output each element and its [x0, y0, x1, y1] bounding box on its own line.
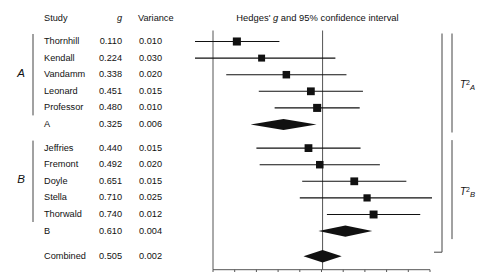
column-header-variance: Variance [138, 14, 174, 23]
row-variance-value-1: 0.030 [139, 54, 162, 63]
effect-marker-professor [313, 104, 321, 112]
effect-marker-thorwald [370, 211, 378, 219]
variance-label-b: T2B [460, 185, 475, 199]
row-variance-value-8: 0.015 [139, 177, 162, 186]
row-study-name-8: Doyle [44, 177, 68, 186]
plot-title: Hedges' g and 95% confidence interval [236, 13, 398, 22]
row-variance-value-2: 0.020 [139, 70, 162, 79]
effect-marker-fremont [316, 161, 324, 169]
row-g-value-0: 0.110 [100, 37, 122, 46]
summary-diamond-a [251, 119, 317, 130]
row-study-name-1: Kendall [44, 54, 75, 63]
row-study-name-10: Thorwald [44, 210, 82, 219]
row-study-name-11: B [44, 227, 50, 236]
row-study-name-7: Fremont [44, 160, 78, 169]
row-variance-value-7: 0.020 [139, 160, 162, 169]
row-study-name-4: Professor [44, 103, 83, 112]
row-variance-value-12: 0.002 [139, 252, 162, 261]
row-study-name-9: Stella [44, 193, 67, 202]
row-g-value-9: 0.710 [99, 193, 122, 202]
row-study-name-5: A [44, 120, 50, 129]
row-study-name-2: Vandamm [44, 70, 85, 79]
row-g-value-5: 0.325 [99, 120, 122, 129]
row-study-name-12: Combined [44, 252, 86, 261]
summary-diamond-combined [303, 250, 341, 262]
effect-marker-doyle [350, 177, 358, 185]
effect-marker-vandamm [283, 71, 291, 79]
row-g-value-3: 0.451 [99, 87, 122, 96]
row-g-value-1: 0.224 [99, 54, 122, 63]
row-g-value-10: 0.740 [99, 210, 122, 219]
row-variance-value-4: 0.010 [139, 103, 162, 112]
row-variance-value-11: 0.004 [139, 227, 162, 236]
column-header-g: g [117, 14, 122, 23]
column-header-study: Study [44, 14, 68, 23]
row-variance-value-3: 0.015 [139, 87, 162, 96]
row-study-name-3: Leonard [44, 87, 78, 96]
row-variance-value-6: 0.015 [139, 144, 162, 153]
row-g-value-7: 0.492 [99, 160, 122, 169]
variance-label-a: T2A [460, 78, 475, 92]
row-variance-value-0: 0.010 [139, 37, 162, 46]
group-label-a: A [17, 69, 25, 78]
effect-marker-kendall [258, 55, 265, 62]
row-g-value-2: 0.338 [99, 70, 122, 79]
effect-marker-leonard [307, 87, 315, 95]
row-g-value-4: 0.480 [99, 103, 122, 112]
row-variance-value-9: 0.025 [139, 193, 162, 202]
row-g-value-12: 0.505 [99, 252, 122, 261]
effect-marker-stella [363, 194, 370, 201]
row-g-value-11: 0.610 [99, 227, 122, 236]
row-study-name-0: Thornhill [44, 37, 79, 46]
effect-marker-thornhill [233, 37, 241, 45]
summary-diamond-b [318, 226, 372, 237]
row-study-name-6: Jeffries [44, 144, 73, 153]
group-label-b: B [17, 175, 25, 184]
effect-marker-jeffries [305, 144, 313, 152]
row-variance-value-5: 0.006 [139, 120, 162, 129]
row-variance-value-10: 0.012 [139, 210, 162, 219]
row-g-value-6: 0.440 [99, 144, 122, 153]
row-g-value-8: 0.651 [99, 177, 122, 186]
